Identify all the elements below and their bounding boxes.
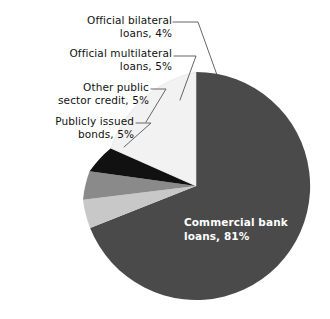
leader-line-official-bilateral-loans <box>173 22 217 75</box>
pie-label-line-2: sector credit, 5% <box>58 94 149 106</box>
pie-label-line-2: bonds, 5% <box>78 128 134 140</box>
pie-label-line-2: loans, 81% <box>184 230 249 242</box>
pie-label-official-bilateral-loans: Official bilateral loans, 4% <box>60 14 172 40</box>
pie-chart-figure: Official bilateral loans, 4% Official mu… <box>0 0 330 319</box>
pie-label-publicly-issued-bonds: Publicly issued bonds, 5% <box>10 115 134 141</box>
pie-label-line-1: Official multilateral <box>70 47 173 59</box>
pie-label-line-1: Official bilateral <box>87 14 172 26</box>
pie-label-line-2: loans, 4% <box>120 27 172 39</box>
pie-label-other-public-sector-credit: Other public sector credit, 5% <box>25 81 149 107</box>
pie-label-commercial-bank-loans: Commercial bank loans, 81% <box>184 216 288 243</box>
pie-label-line-1: Publicly issued <box>55 115 134 127</box>
pie-label-official-multilateral-loans: Official multilateral loans, 5% <box>30 47 172 73</box>
pie-label-line-2: loans, 5% <box>120 60 172 72</box>
pie-label-line-1: Other public <box>83 81 149 93</box>
pie-label-line-1: Commercial bank <box>184 216 288 228</box>
